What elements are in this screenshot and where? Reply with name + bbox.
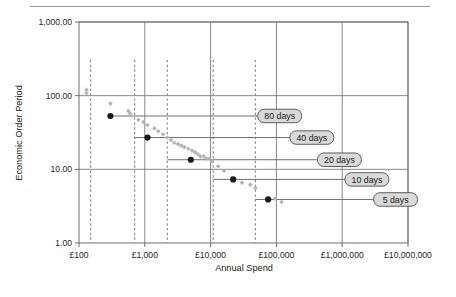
chart-figure: £100£1,000£10,000£100,000£1,000,000£10,0… [0, 0, 456, 297]
callout-pill-20-days[interactable]: 20 days [317, 153, 361, 167]
x-tick-label: £100,000 [258, 250, 294, 260]
scatter-point [108, 101, 113, 106]
y-axis-title: Economic Order Period [14, 85, 24, 181]
callout-pill-5-days[interactable]: 5 days [374, 193, 418, 207]
y-axis-tick-labels: 1.0010.00100.001,000.00 [39, 17, 73, 248]
breakpoint-marker [188, 157, 194, 163]
scatter-point [165, 135, 170, 140]
plot-border [79, 22, 408, 243]
y-tick-label: 1.00 [55, 238, 72, 248]
breakpoint-marker [265, 196, 271, 202]
scatter-point [161, 132, 166, 137]
scatter-point [156, 129, 161, 134]
scatter-point [169, 138, 174, 143]
chart-canvas: £100£1,000£10,000£100,000£1,000,000£10,0… [0, 0, 456, 297]
callout-pill-label: 80 days [264, 111, 295, 121]
scatter-point [279, 200, 284, 205]
breakpoint-markers [107, 113, 271, 203]
callout-pill-label: 20 days [324, 155, 355, 165]
callout-pill-40-days[interactable]: 40 days [290, 131, 334, 145]
y-tick-label: 100.00 [46, 91, 73, 101]
callout-pills: 80 days40 days20 days10 days5 days [258, 109, 418, 206]
scatter-point [152, 126, 157, 131]
x-axis-tick-labels: £100£1,000£10,000£100,000£1,000,000£10,0… [69, 250, 432, 260]
callout-pill-label: 5 days [383, 195, 410, 205]
x-tick-label: £10,000,000 [384, 250, 432, 260]
x-tick-label: £1,000,000 [321, 250, 364, 260]
callout-pill-label: 40 days [296, 133, 327, 143]
threshold-lines [91, 60, 256, 243]
x-axis-title: Annual Spend [215, 263, 273, 273]
scatter-point [253, 186, 258, 191]
breakpoint-marker [230, 176, 236, 182]
plot-frame [75, 22, 408, 247]
callout-pill-10-days[interactable]: 10 days [345, 173, 389, 187]
scatter-point [240, 180, 245, 185]
y-tick-label: 1,000.00 [39, 17, 73, 27]
scatter-point [216, 164, 221, 169]
scatter-point [84, 91, 89, 96]
breakpoint-marker [107, 113, 113, 119]
scatter-point [248, 182, 253, 187]
scatter-point [172, 140, 177, 145]
x-tick-label: £1,000 [132, 250, 159, 260]
scatter-points [84, 88, 284, 205]
x-tick-label: £100 [69, 250, 88, 260]
callout-pill-80-days[interactable]: 80 days [258, 109, 302, 123]
scatter-point [136, 118, 141, 123]
y-tick-label: 10.00 [50, 164, 72, 174]
x-tick-label: £10,000 [195, 250, 226, 260]
scatter-point [145, 123, 150, 128]
breakpoint-marker [144, 134, 150, 140]
gridlines [79, 22, 408, 243]
callout-pill-label: 10 days [352, 175, 383, 185]
